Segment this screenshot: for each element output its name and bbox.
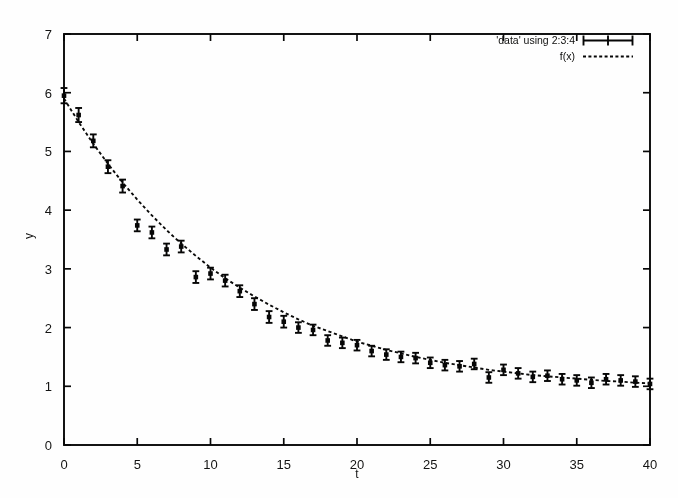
data-point-marker	[501, 368, 506, 373]
data-point-marker	[325, 338, 330, 343]
y-tick-label: 4	[45, 203, 52, 218]
data-point-marker	[120, 184, 125, 189]
x-tick-label: 10	[203, 457, 217, 472]
data-point-marker	[545, 373, 550, 378]
data-point-marker	[106, 164, 111, 169]
data-point-marker	[238, 289, 243, 294]
x-tick-label: 35	[570, 457, 584, 472]
data-point-marker	[604, 377, 609, 382]
data-point-marker	[208, 271, 213, 276]
data-point-marker	[194, 275, 199, 280]
data-point-marker	[399, 355, 404, 360]
data-point-marker	[91, 139, 96, 144]
y-tick-label: 0	[45, 438, 52, 453]
data-point-marker	[516, 371, 521, 376]
x-tick-label: 0	[60, 457, 67, 472]
legend-entry-fx-label: f(x)	[560, 50, 575, 62]
data-point-marker	[443, 363, 448, 368]
data-point-marker	[531, 375, 536, 380]
data-point-marker	[311, 328, 316, 333]
data-point-marker	[267, 315, 272, 320]
data-point-marker	[648, 382, 653, 387]
data-point-marker	[413, 356, 418, 361]
x-tick-label: 5	[134, 457, 141, 472]
data-point-marker	[355, 343, 360, 348]
data-point-marker	[150, 230, 155, 235]
y-axis-title: y	[22, 233, 36, 239]
y-tick-label: 7	[45, 27, 52, 42]
data-point-marker	[560, 377, 565, 382]
y-tick-label: 2	[45, 321, 52, 336]
data-point-marker	[281, 319, 286, 324]
data-point-marker	[223, 278, 228, 283]
x-tick-label: 25	[423, 457, 437, 472]
legend-entry-data-label: 'data' using 2:3:4	[496, 34, 575, 46]
x-tick-label: 30	[496, 457, 510, 472]
data-point-marker	[76, 113, 81, 118]
data-point-marker	[164, 247, 169, 252]
chart-figure: 0510152025303540 01234567 t y 'data' usi…	[0, 0, 678, 498]
data-point-marker	[384, 352, 389, 357]
data-point-marker	[340, 341, 345, 346]
data-point-marker	[633, 379, 638, 384]
data-point-marker	[252, 302, 257, 307]
chart-canvas: 0510152025303540 01234567 t y 'data' usi…	[0, 0, 678, 498]
x-tick-label: 15	[277, 457, 291, 472]
data-point-marker	[135, 223, 140, 228]
data-point-marker	[179, 244, 184, 249]
data-point-marker	[574, 378, 579, 383]
y-tick-label: 6	[45, 86, 52, 101]
data-point-marker	[472, 362, 477, 367]
x-tick-label: 40	[643, 457, 657, 472]
y-tick-label: 1	[45, 379, 52, 394]
data-point-marker	[296, 325, 301, 330]
chart-background	[0, 0, 678, 498]
y-tick-label: 3	[45, 262, 52, 277]
data-point-marker	[589, 380, 594, 385]
chart-plate: 0510152025303540 01234567 t y 'data' usi…	[0, 0, 678, 498]
data-point-marker	[428, 361, 433, 366]
data-point-marker	[457, 364, 462, 369]
data-point-marker	[369, 349, 374, 354]
y-tick-label: 5	[45, 144, 52, 159]
data-point-marker	[62, 93, 67, 98]
data-point-marker	[487, 375, 492, 380]
data-point-marker	[618, 378, 623, 383]
